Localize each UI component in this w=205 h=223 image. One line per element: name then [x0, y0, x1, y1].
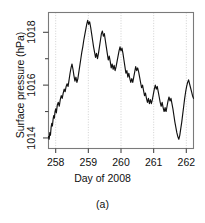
chart-figure: Surface pressure (hPa) 101410161018 2582…: [0, 0, 205, 223]
x-tick-label: 259: [73, 156, 103, 168]
data-line-surface-pressure: [49, 20, 194, 139]
y-tick-label: 1018: [25, 17, 37, 47]
x-tick-label: 262: [171, 156, 201, 168]
x-tick-label: 258: [41, 156, 71, 168]
y-tick-label: 1014: [25, 123, 37, 153]
y-tick-label: 1016: [25, 70, 37, 100]
figure-caption: (a): [0, 198, 205, 210]
x-axis-title: Day of 2008: [0, 172, 205, 184]
x-tick-label: 260: [106, 156, 136, 168]
x-tick-label: 261: [139, 156, 169, 168]
